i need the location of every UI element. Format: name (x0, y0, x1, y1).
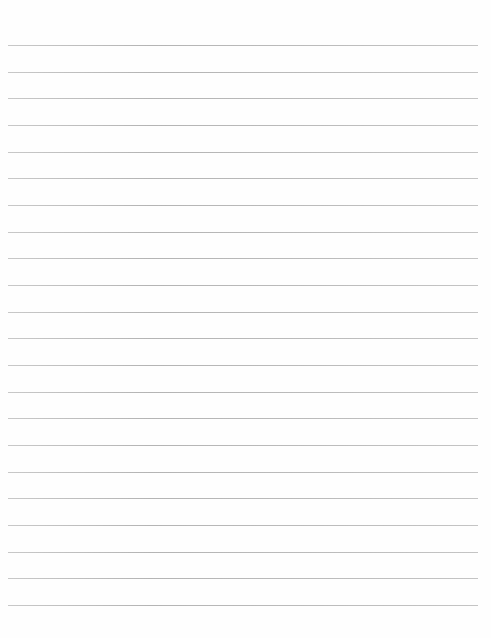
ruled-line (8, 392, 478, 393)
ruled-line (8, 525, 478, 526)
ruled-line (8, 98, 478, 99)
ruled-line (8, 72, 478, 73)
ruled-line (8, 578, 478, 579)
ruled-line (8, 445, 478, 446)
ruled-line (8, 125, 478, 126)
ruled-line (8, 285, 478, 286)
ruled-line (8, 498, 478, 499)
ruled-line (8, 258, 478, 259)
lined-paper-page (0, 0, 491, 638)
ruled-line (8, 338, 478, 339)
ruled-line (8, 152, 478, 153)
ruled-line (8, 605, 478, 606)
ruled-line (8, 365, 478, 366)
ruled-line (8, 472, 478, 473)
ruled-line (8, 418, 478, 419)
ruled-line (8, 178, 478, 179)
ruled-line (8, 45, 478, 46)
ruled-line (8, 205, 478, 206)
ruled-line (8, 232, 478, 233)
ruled-line (8, 552, 478, 553)
ruled-line (8, 312, 478, 313)
